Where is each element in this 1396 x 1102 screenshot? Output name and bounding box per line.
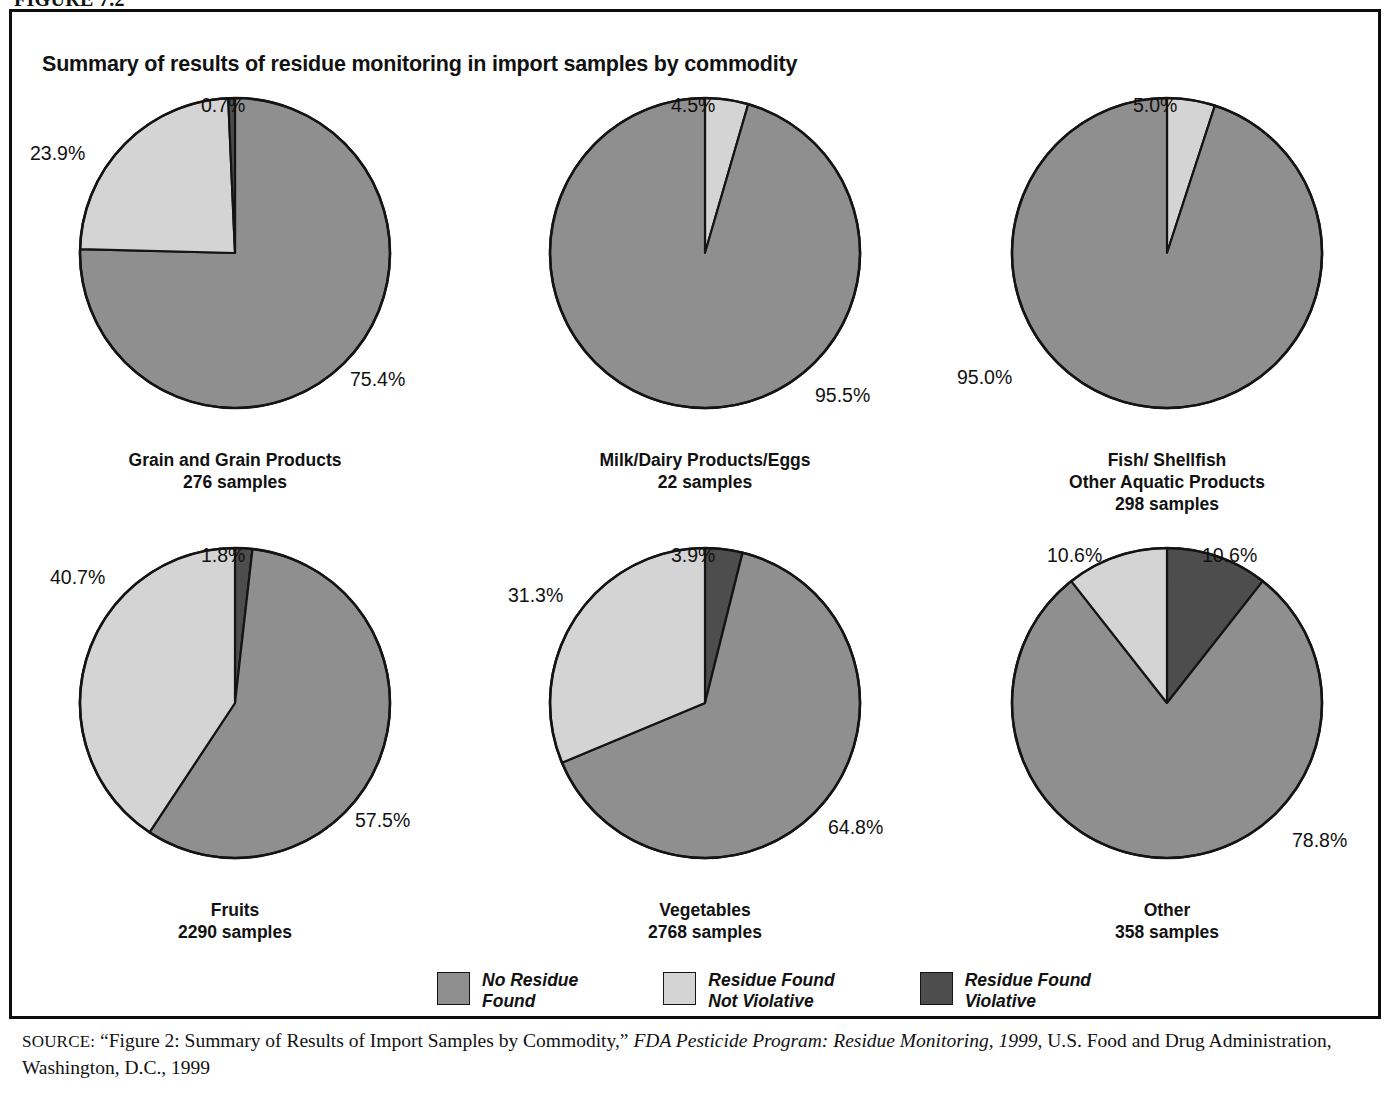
pie-percent-label: 78.8% (1292, 829, 1347, 852)
pie-caption-line-2: Other Aquatic Products (952, 471, 1382, 493)
legend-item-not-violative: Residue Found Not Violative (663, 970, 834, 1011)
pie-caption-line-2: 2768 samples (490, 921, 920, 943)
pie-caption: Other358 samples (952, 899, 1382, 943)
pie-caption: Vegetables2768 samples (490, 899, 920, 943)
pie-graphic: 3.9%64.8%31.3% (490, 544, 920, 904)
pie-percent-label: 4.5% (671, 94, 715, 117)
pie-slice-not-violative (80, 98, 235, 253)
pie-chart-fish-shellfish-other-aquatic-products: 5.0%95.0%Fish/ ShellfishOther Aquatic Pr… (952, 94, 1382, 524)
pie-percent-label: 95.5% (815, 384, 870, 407)
pie-percent-label: 3.9% (671, 544, 715, 567)
source-publication-title: FDA Pesticide Program: Residue Monitorin… (633, 1030, 1037, 1051)
legend-item-violative: Residue Found Violative (920, 970, 1091, 1011)
pie-percent-label: 5.0% (1133, 94, 1177, 117)
pie-percent-label: 57.5% (355, 809, 410, 832)
legend-item-no-residue: No Residue Found (437, 970, 578, 1011)
pie-caption-line-2: 358 samples (952, 921, 1382, 943)
pie-percent-label: 1.8% (201, 544, 245, 567)
figure-frame: Summary of results of residue monitoring… (9, 9, 1381, 1019)
pie-percent-label: 0.7% (201, 94, 245, 117)
source-label: SOURCE: (22, 1032, 95, 1051)
pie-caption-line-1: Vegetables (490, 899, 920, 921)
pie-caption: Fish/ ShellfishOther Aquatic Products298… (952, 449, 1382, 516)
pie-caption-line-2: 276 samples (20, 471, 450, 493)
pie-percent-label: 23.9% (30, 142, 85, 165)
pie-caption-line-2: 22 samples (490, 471, 920, 493)
pie-slice-no-residue (550, 98, 860, 408)
pie-graphic: 75.4%23.9%0.7% (20, 94, 450, 454)
pie-percent-label: 40.7% (50, 566, 105, 589)
legend-swatch-icon (437, 972, 470, 1005)
pie-svg (546, 544, 864, 862)
legend-swatch-icon (663, 972, 696, 1005)
pie-slice-no-residue (1012, 98, 1322, 408)
pie-caption-line-3: 298 samples (952, 493, 1382, 515)
pie-caption-line-1: Other (952, 899, 1382, 921)
source-note: SOURCE: “Figure 2: Summary of Results of… (22, 1028, 1382, 1081)
pie-caption: Fruits2290 samples (20, 899, 450, 943)
pie-caption: Grain and Grain Products276 samples (20, 449, 450, 493)
source-text-1: “Figure 2: Summary of Results of Import … (95, 1030, 633, 1051)
pie-caption: Milk/Dairy Products/Eggs22 samples (490, 449, 920, 493)
pie-percent-label: 75.4% (350, 368, 405, 391)
pie-graphic: 1.8%57.5%40.7% (20, 544, 450, 904)
pie-caption-line-2: 2290 samples (20, 921, 450, 943)
pie-caption-line-1: Grain and Grain Products (20, 449, 450, 471)
pie-percent-label: 95.0% (957, 366, 1012, 389)
pie-graphic: 10.6%78.8%10.6% (952, 544, 1382, 904)
legend-label: No Residue Found (482, 970, 578, 1011)
pie-percent-label: 10.6% (1047, 544, 1102, 567)
chart-legend: No Residue FoundResidue Found Not Violat… (437, 970, 1091, 1011)
pie-svg (76, 544, 394, 862)
pie-chart-vegetables: 3.9%64.8%31.3%Vegetables2768 samples (490, 544, 920, 974)
pie-chart-fruits: 1.8%57.5%40.7%Fruits2290 samples (20, 544, 450, 974)
figure-title: Summary of results of residue monitoring… (42, 52, 797, 77)
pie-graphic: 5.0%95.0% (952, 94, 1382, 454)
pie-caption-line-1: Fish/ Shellfish (952, 449, 1382, 471)
pie-chart-milk-dairy-products-eggs: 4.5%95.5%Milk/Dairy Products/Eggs22 samp… (490, 94, 920, 524)
pie-svg (1008, 544, 1326, 862)
legend-swatch-icon (920, 972, 953, 1005)
pie-caption-line-1: Fruits (20, 899, 450, 921)
pie-chart-grain-and-grain-products: 75.4%23.9%0.7%Grain and Grain Products27… (20, 94, 450, 524)
pie-svg (546, 94, 864, 412)
legend-label: Residue Found Violative (965, 970, 1091, 1011)
pie-svg (76, 94, 394, 412)
pie-caption-line-1: Milk/Dairy Products/Eggs (490, 449, 920, 471)
pie-chart-other: 10.6%78.8%10.6%Other358 samples (952, 544, 1382, 974)
pie-svg (1008, 94, 1326, 412)
legend-label: Residue Found Not Violative (708, 970, 834, 1011)
pie-percent-label: 31.3% (508, 584, 563, 607)
pie-percent-label: 10.6% (1202, 544, 1257, 567)
pie-percent-label: 64.8% (828, 816, 883, 839)
pie-graphic: 4.5%95.5% (490, 94, 920, 454)
